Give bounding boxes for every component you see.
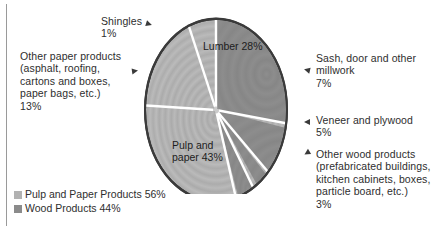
figure-left-rule bbox=[6, 4, 7, 226]
callout-other-paper-products-name: Other paper products (asphalt, roofing, … bbox=[20, 50, 121, 99]
pie-chart bbox=[143, 8, 289, 194]
legend-item-wood-products: Wood Products 44% bbox=[14, 202, 166, 215]
leader-arrow-veneer-and-plywood-icon bbox=[304, 119, 310, 125]
legend-item-pulp-and-paper-products: Pulp and Paper Products 56% bbox=[14, 188, 166, 201]
legend-swatch-pulp-and-paper-products bbox=[14, 191, 22, 199]
callout-shingles-pct: 1% bbox=[101, 27, 161, 39]
callout-veneer-and-plywood: Veneer and plywood 5% bbox=[316, 114, 428, 139]
slice-label-lumber-pct: 28% bbox=[242, 40, 263, 52]
pie-center-pith bbox=[213, 107, 219, 114]
slice-label-lumber: Lumber 28% bbox=[203, 40, 273, 52]
callout-sash-door-millwork: Sash, door and other millwork 7% bbox=[316, 52, 430, 89]
chart-legend: Pulp and Paper Products 56% Wood Product… bbox=[14, 188, 166, 216]
slice-label-lumber-name: Lumber bbox=[203, 40, 239, 52]
callout-veneer-and-plywood-pct: 5% bbox=[316, 126, 428, 138]
callout-other-wood-products-name: Other wood products (prefabricated build… bbox=[316, 148, 431, 197]
callout-shingles: Shingles 1% bbox=[101, 15, 161, 40]
callout-sash-door-millwork-name: Sash, door and other millwork bbox=[316, 52, 416, 76]
callout-shingles-name: Shingles bbox=[101, 15, 142, 27]
callout-other-wood-products: Other wood products (prefabricated build… bbox=[316, 148, 432, 210]
callout-other-paper-products-pct: 13% bbox=[20, 100, 130, 112]
slice-label-pulp-and-paper: Pulp and paper 43% bbox=[172, 139, 242, 164]
callout-other-paper-products: Other paper products (asphalt, roofing, … bbox=[20, 50, 130, 112]
callout-other-wood-products-pct: 3% bbox=[316, 198, 432, 210]
leader-arrow-other-wood-products-icon bbox=[303, 149, 311, 157]
leader-arrow-sash-door-millwork-icon bbox=[303, 66, 310, 73]
callout-veneer-and-plywood-name: Veneer and plywood bbox=[316, 114, 413, 126]
slice-label-pulp-and-paper-pct: 43% bbox=[202, 151, 223, 163]
pie-chart-svg bbox=[143, 8, 289, 194]
legend-label-wood-products: Wood Products 44% bbox=[25, 202, 121, 215]
legend-label-pulp-and-paper-products: Pulp and Paper Products 56% bbox=[25, 188, 166, 201]
callout-sash-door-millwork-pct: 7% bbox=[316, 77, 430, 89]
legend-swatch-wood-products bbox=[14, 205, 22, 213]
leader-arrow-other-paper-products-icon bbox=[132, 68, 139, 75]
